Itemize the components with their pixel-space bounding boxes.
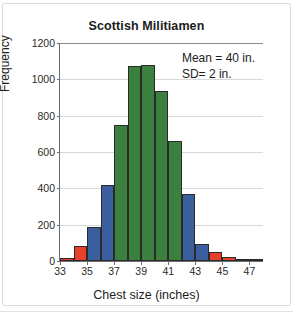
y-tick-mark: [57, 188, 61, 189]
histogram-bar: [209, 252, 223, 261]
y-tick-mark: [57, 43, 61, 44]
histogram-bar: [87, 227, 101, 261]
x-tick-label: 47: [244, 265, 256, 277]
histogram-bar: [195, 244, 209, 261]
y-tick-label: 1000: [32, 73, 55, 85]
y-tick-label: 600: [37, 146, 55, 158]
histogram-bar: [249, 259, 263, 261]
x-tick-label: 37: [108, 265, 120, 277]
annotation-mean: Mean = 40 in.: [182, 50, 255, 66]
histogram-bar: [182, 194, 196, 261]
x-tick-mark: [249, 261, 250, 265]
y-axis-title: Frequency: [0, 0, 12, 92]
y-tick-label: 400: [37, 182, 55, 194]
chart-figure: Scottish Militiamen Frequency 0200400600…: [0, 0, 293, 320]
histogram-bar: [168, 141, 182, 261]
x-tick-label: 39: [135, 265, 147, 277]
annotation-sd: SD= 2 in.: [182, 66, 255, 82]
stats-annotation: Mean = 40 in. SD= 2 in.: [182, 50, 255, 82]
x-tick-label: 43: [189, 265, 201, 277]
x-tick-mark: [87, 261, 88, 265]
plot-top-rule: [60, 43, 263, 44]
histogram-bar: [222, 257, 236, 261]
x-tick-label: 45: [217, 265, 229, 277]
y-tick-mark: [57, 116, 61, 117]
x-tick-label: 33: [54, 265, 66, 277]
x-tick-mark: [195, 261, 196, 265]
x-tick-mark: [222, 261, 223, 265]
x-tick-mark: [114, 261, 115, 265]
x-tick-label: 35: [81, 265, 93, 277]
y-tick-mark: [57, 225, 61, 226]
histogram-bar: [101, 185, 115, 261]
figure-bottom-rule: [0, 311, 293, 312]
y-tick-label: 200: [37, 219, 55, 231]
plot-area: 020040060080010001200 3335373941434547 M…: [59, 43, 263, 262]
x-tick-label: 41: [162, 265, 174, 277]
x-axis-title: Chest size (inches): [0, 288, 293, 302]
y-tick-mark: [57, 152, 61, 153]
histogram-bar: [128, 66, 142, 261]
chart-title: Scottish Militiamen: [0, 19, 293, 33]
x-tick-mark: [60, 261, 61, 265]
histogram-bar: [60, 258, 74, 261]
y-tick-label: 1200: [32, 37, 55, 49]
histogram-bar: [74, 246, 88, 261]
y-tick-mark: [57, 79, 61, 80]
histogram-bar: [141, 65, 155, 261]
histogram-bar: [114, 125, 128, 261]
histogram-bar: [236, 259, 250, 261]
histogram-bar: [155, 91, 169, 261]
x-tick-mark: [141, 261, 142, 265]
y-tick-label: 800: [37, 110, 55, 122]
x-tick-mark: [168, 261, 169, 265]
